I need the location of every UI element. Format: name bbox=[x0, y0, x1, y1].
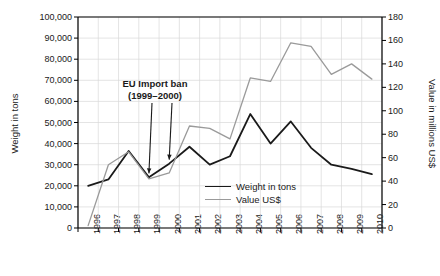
legend-swatch-icon bbox=[205, 186, 231, 187]
annotation-arrows bbox=[147, 103, 172, 173]
legend-label: Weight in tons bbox=[236, 180, 296, 193]
annotation-line-1: EU Import ban bbox=[96, 78, 214, 90]
legend-item-1: Value US$ bbox=[205, 193, 296, 206]
series-line-0 bbox=[88, 114, 372, 186]
legend-item-0: Weight in tons bbox=[205, 180, 296, 193]
plot-area bbox=[0, 0, 440, 276]
legend-swatch-icon bbox=[205, 199, 231, 200]
chart-legend: Weight in tonsValue US$ bbox=[205, 180, 296, 206]
annotation-line-2: (1999–2000) bbox=[96, 90, 214, 102]
chart-container: Weight in tons Value in millions US$ 010… bbox=[0, 0, 440, 276]
legend-label: Value US$ bbox=[236, 193, 281, 206]
annotation-eu-import-ban: EU Import ban (1999–2000) bbox=[96, 78, 214, 102]
